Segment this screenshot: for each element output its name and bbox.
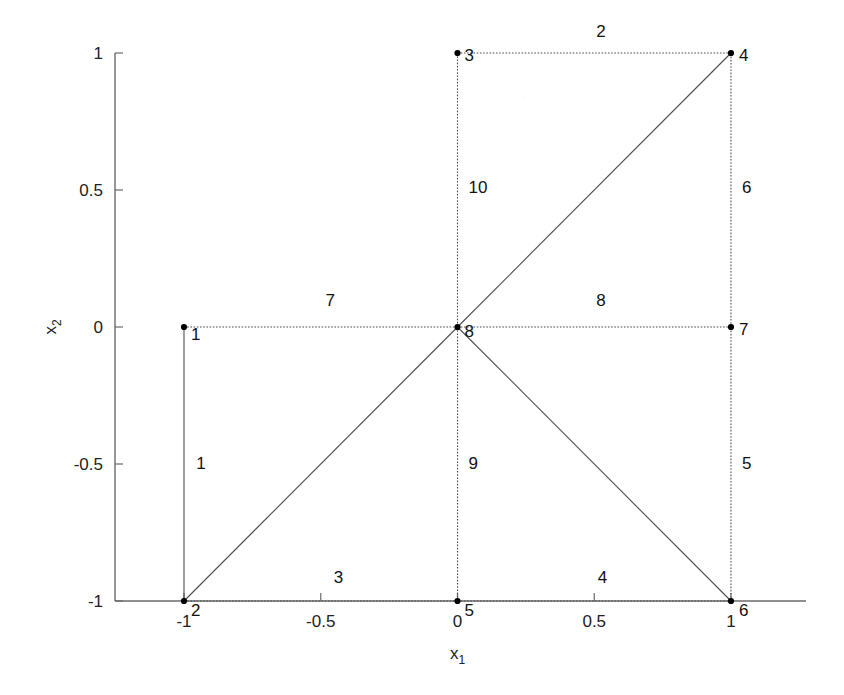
y-tick-label: 0.5 [79, 181, 103, 200]
x-tick-label: -0.5 [306, 612, 335, 631]
x-tick-label: -1 [176, 612, 191, 631]
edge-label-2: 2 [596, 22, 605, 41]
node-label-4: 4 [739, 46, 748, 65]
mesh-node-7 [728, 324, 734, 330]
x-tick-label: 0 [453, 612, 462, 631]
edge-label-8: 8 [596, 291, 605, 310]
mesh-figure: 12345678910 12345678 -1-0.500.51-1-0.500… [0, 0, 844, 695]
edge-label-4: 4 [598, 568, 607, 587]
y-tick-label: 1 [94, 44, 103, 63]
edge-label-9: 9 [468, 454, 477, 473]
mesh-node-1 [181, 324, 187, 330]
mesh-diagonal-8-6 [458, 327, 732, 601]
x-tick-label: 0.5 [582, 612, 606, 631]
y-tick-label: 0 [94, 318, 103, 337]
mesh-diagonal-8-4 [458, 53, 732, 327]
x-axis-title: x1 [450, 644, 466, 667]
axis-titles-group: x1x2 [41, 319, 465, 667]
mesh-node-2 [181, 598, 187, 604]
mesh-node-4 [728, 50, 734, 56]
node-label-8: 8 [465, 322, 474, 341]
node-label-5: 5 [465, 601, 474, 620]
y-tick-label: -0.5 [74, 455, 103, 474]
mesh-node-5 [454, 598, 460, 604]
edge-label-10: 10 [468, 178, 487, 197]
y-axis-title: x2 [41, 319, 64, 335]
mesh-node-3 [454, 50, 460, 56]
node-label-6: 6 [739, 601, 748, 620]
mesh-node-8 [454, 324, 460, 330]
mesh-node-6 [728, 598, 734, 604]
mesh-diagonal-2-8 [184, 327, 458, 601]
node-label-2: 2 [191, 601, 200, 620]
node-label-1: 1 [191, 325, 200, 344]
edge-label-7: 7 [326, 291, 335, 310]
edge-labels-group: 12345678910 [196, 22, 751, 588]
edge-label-3: 3 [334, 568, 343, 587]
node-labels-group: 12345678 [191, 46, 748, 620]
mesh-plot-canvas: 12345678910 12345678 -1-0.500.51-1-0.500… [0, 0, 844, 695]
tick-labels-group: -1-0.500.51-1-0.500.51 [74, 44, 736, 631]
node-label-7: 7 [739, 320, 748, 339]
node-label-3: 3 [465, 46, 474, 65]
x-tick-label: 1 [726, 612, 735, 631]
y-tick-label: -1 [88, 592, 103, 611]
edge-label-5: 5 [742, 454, 751, 473]
edge-label-1: 1 [196, 454, 205, 473]
edge-label-6: 6 [742, 178, 751, 197]
